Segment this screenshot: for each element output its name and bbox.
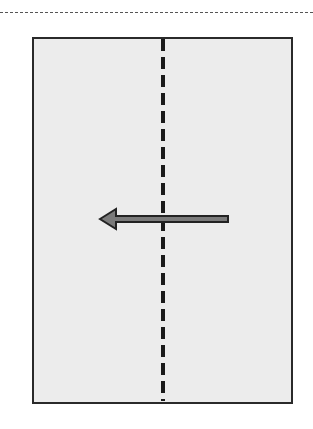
diagram-overlay (0, 0, 313, 429)
